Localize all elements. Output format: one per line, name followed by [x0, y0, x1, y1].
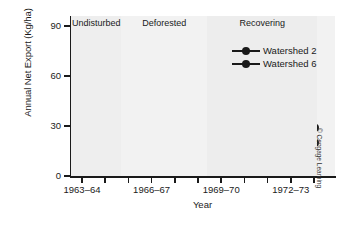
band-label-deforested: Deforested [121, 18, 207, 28]
y-tick-label: 0 [56, 170, 61, 181]
y-tick-label: 60 [50, 70, 61, 81]
x-tick [81, 177, 83, 183]
y-tick [64, 175, 71, 177]
chart-legend: Watershed 2Watershed 6 [232, 44, 317, 70]
band-recovering: Recovering [207, 16, 317, 176]
x-tick [197, 177, 199, 183]
plot-area: UndisturbedDeforestedRecovering [70, 16, 335, 176]
x-tick [220, 177, 222, 183]
y-tick [64, 25, 71, 27]
y-tick-label: 90 [50, 20, 61, 31]
y-axis-title: Annual Net Export (Kg/ha) [22, 0, 33, 138]
x-tick-label: 1969–70 [203, 184, 240, 195]
x-tick [128, 177, 130, 183]
chart-figure: Annual Net Export (Kg/ha) UndisturbedDef… [0, 0, 360, 226]
x-tick [290, 177, 292, 183]
x-tick [104, 177, 106, 183]
legend-item-watershed-2[interactable]: Watershed 2 [232, 44, 317, 57]
x-tick [313, 177, 315, 183]
band-deforested: Deforested [121, 16, 207, 176]
x-tick [174, 177, 176, 183]
x-tick-label: 1966–67 [133, 184, 170, 195]
legend-marker-icon [232, 58, 260, 69]
x-tick [244, 177, 246, 183]
band-undisturbed: Undisturbed [71, 16, 121, 176]
legend-label: Watershed 6 [263, 58, 317, 69]
x-axis-title: Year [70, 199, 335, 210]
y-tick [64, 125, 71, 127]
x-tick [151, 177, 153, 183]
legend-item-watershed-6[interactable]: Watershed 6 [232, 57, 317, 70]
copyright-credit: © Cengage Learning [316, 128, 323, 214]
y-tick [64, 75, 71, 77]
band-label-undisturbed: Undisturbed [71, 18, 121, 28]
legend-label: Watershed 2 [263, 45, 317, 56]
x-tick-label: 1972–73 [272, 184, 309, 195]
x-tick [267, 177, 269, 183]
x-axis-line [70, 176, 336, 178]
band-label-recovering: Recovering [207, 18, 317, 28]
y-tick-label: 30 [50, 120, 61, 131]
legend-marker-icon [232, 45, 260, 56]
x-tick-label: 1963–64 [64, 184, 101, 195]
